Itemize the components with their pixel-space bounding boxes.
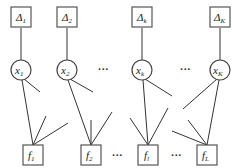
delta-to-variable-edges <box>21 28 220 60</box>
delta-node-K: ΔK <box>210 7 230 27</box>
factor-node-fl: fl <box>138 145 158 165</box>
factor-node-f1: f1 <box>23 145 43 165</box>
delta-nodes: Δ1 Δ2 Δk ΔK <box>11 7 230 27</box>
variable-node-xK: xK <box>210 60 230 80</box>
delta-node-k: Δk <box>132 7 152 27</box>
variable-node-xk: xk <box>132 60 152 80</box>
ellipsis: ··· <box>180 63 191 75</box>
delta-node-1: Δ1 <box>11 7 31 27</box>
variable-to-factor-edges <box>22 79 219 145</box>
ellipsis: ··· <box>112 149 123 161</box>
variable-node-x2: x2 <box>57 60 77 80</box>
factor-node-f2: f2 <box>81 145 101 165</box>
factor-node-fL: fL <box>197 145 217 165</box>
ellipsis: ··· <box>171 149 182 161</box>
factor-graph-diagram: Δ1 Δ2 Δk ΔK x1 x2 xk xK <box>0 0 234 168</box>
delta-node-2: Δ2 <box>57 7 77 27</box>
variable-node-x1: x1 <box>11 60 31 80</box>
variable-nodes: x1 x2 xk xK <box>11 60 230 80</box>
ellipsis: ··· <box>98 63 109 75</box>
